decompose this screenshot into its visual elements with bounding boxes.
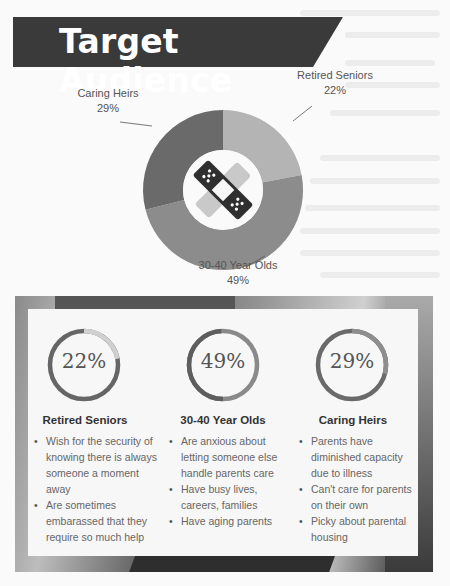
column-title: Retired Seniors (20, 414, 150, 426)
bullet-list: Are anxious about letting someone else h… (168, 433, 288, 529)
label-name: Retired Seniors (285, 68, 385, 83)
bullet-list: Wish for the security of knowing there i… (33, 433, 163, 545)
column-title: 30-40 Year Olds (158, 414, 288, 426)
label-30-40-year-olds: 30-40 Year Olds 49% (178, 258, 298, 288)
leader-line-caring (120, 122, 152, 126)
ring-percentage: 22% (46, 349, 122, 373)
label-pct: 22% (285, 83, 385, 98)
bullet-item: Parents have diminished capacity due to … (298, 433, 420, 481)
column-title: Caring Heirs (288, 414, 418, 426)
bullet-item: Can't care for parents on their own (298, 481, 420, 513)
label-pct: 29% (58, 101, 158, 116)
ring-percentage: 29% (314, 349, 390, 373)
label-name: Caring Heirs (58, 86, 158, 101)
label-pct: 49% (178, 273, 298, 288)
bullet-item: Are sometimes embarassed that they requi… (33, 497, 163, 545)
leader-line-retired (293, 106, 312, 121)
bullet-item: Picky about parental housing (298, 513, 420, 545)
bullet-item: Are anxious about letting someone else h… (168, 433, 288, 481)
bullet-item: Have aging parents (168, 513, 288, 529)
label-name: 30-40 Year Olds (178, 258, 298, 273)
bullet-item: Wish for the security of knowing there i… (33, 433, 163, 497)
label-caring-heirs: Caring Heirs 29% (58, 86, 158, 116)
bullet-list: Parents have diminished capacity due to … (298, 433, 420, 545)
audience-card-panel: 22% Retired Seniors Wish for the securit… (28, 309, 418, 556)
ring-percentage: 49% (185, 349, 261, 373)
donut-chart (0, 0, 450, 300)
bullet-item: Have busy lives, careers, families (168, 481, 288, 513)
label-retired-seniors: Retired Seniors 22% (285, 68, 385, 98)
